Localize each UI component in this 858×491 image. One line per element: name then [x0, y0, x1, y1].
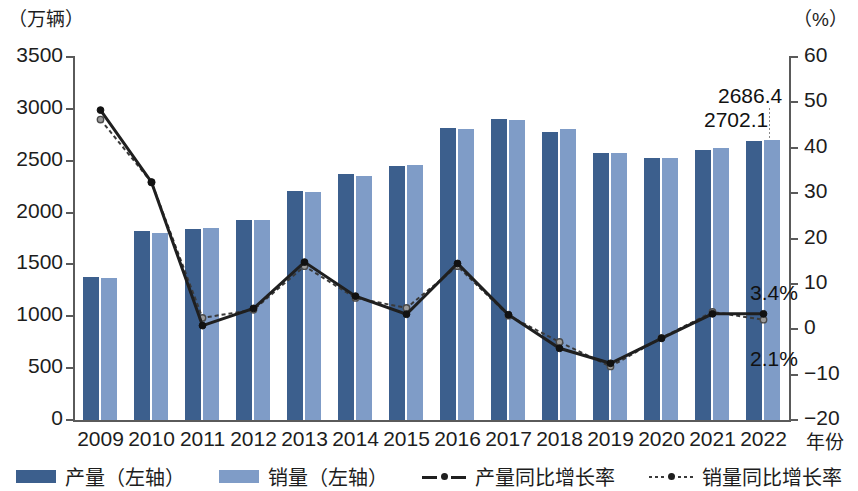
right-axis-tick	[789, 328, 798, 330]
production-bar	[593, 153, 609, 420]
dashed-line-marker-icon	[649, 470, 693, 484]
production-bar	[83, 277, 99, 420]
left-axis-tick-label: 2000	[16, 199, 63, 223]
x-axis-tick-label: 2011	[175, 427, 231, 451]
x-axis-tick-label: 2015	[379, 427, 435, 451]
production-bar	[491, 119, 507, 420]
left-axis-tick-label: 2500	[16, 147, 63, 171]
sales-growth-2022-label: 2.1%	[750, 347, 798, 371]
right-axis-tick-label: 30	[804, 179, 827, 203]
left-axis-tick-label: 0	[51, 406, 63, 430]
sales-bar	[509, 120, 525, 420]
production-bar	[134, 231, 150, 420]
x-axis-tick-label: 2010	[124, 427, 180, 451]
production-bar	[287, 191, 303, 420]
x-axis-tick-label: 2017	[481, 427, 537, 451]
right-axis-tick	[789, 238, 798, 240]
right-axis-tick	[789, 192, 798, 194]
production-growth-2022-label: 3.4%	[750, 281, 798, 305]
left-axis-tick-label: 1500	[16, 250, 63, 274]
right-axis-tick-label: 10	[804, 270, 827, 294]
left-axis-unit-label: （万辆）	[8, 4, 84, 31]
right-axis-unit-label: （%）	[793, 4, 848, 31]
production-bar	[440, 128, 456, 420]
right-axis-tick-label: 60	[804, 43, 827, 67]
x-axis-title: 年份	[806, 427, 844, 454]
legend-item[interactable]: 产量（左轴）	[16, 462, 185, 491]
production-bar	[542, 132, 558, 420]
chart-legend: 产量（左轴）销量（左轴）产量同比增长率销量同比增长率	[0, 462, 858, 491]
production-bar	[236, 220, 252, 420]
production-swatch-icon	[16, 470, 56, 483]
plot-area	[74, 57, 790, 420]
legend-item[interactable]: 产量同比增长率	[422, 462, 615, 491]
sales-bar	[764, 140, 780, 420]
x-axis-tick-label: 2021	[685, 427, 741, 451]
x-axis-tick-label: 2009	[73, 427, 129, 451]
production-bar	[338, 174, 354, 420]
sales-bar	[407, 165, 423, 420]
sales-bar	[713, 148, 729, 421]
x-axis-tick-label: 2012	[226, 427, 282, 451]
sales-bar	[611, 153, 627, 420]
left-axis-tick-label: 3500	[16, 43, 63, 67]
legend-item[interactable]: 销量同比增长率	[649, 462, 842, 491]
right-axis-tick-label: −10	[804, 361, 840, 385]
sales-bar	[101, 278, 117, 420]
production-2022-value-label: 2686.4	[718, 84, 782, 108]
x-axis-tick-label: 2014	[328, 427, 384, 451]
legend-label: 产量同比增长率	[475, 462, 615, 491]
x-axis-tick-label: 2018	[532, 427, 588, 451]
right-axis-tick	[789, 419, 798, 421]
production-bar	[644, 158, 660, 420]
legend-label: 销量同比增长率	[702, 462, 842, 491]
sales-bar	[458, 129, 474, 420]
sales-bar	[254, 220, 270, 420]
sales-bar	[152, 233, 168, 420]
right-axis-tick-label: 0	[804, 315, 816, 339]
production-bar	[185, 229, 201, 420]
production-bar	[389, 166, 405, 420]
legend-label: 销量（左轴）	[268, 462, 388, 491]
x-axis-tick-label: 2019	[583, 427, 639, 451]
sales-swatch-icon	[219, 470, 259, 483]
left-axis-tick-label: 1000	[16, 302, 63, 326]
sales-2022-value-label: 2702.1	[704, 108, 768, 132]
x-axis-tick-label: 2013	[277, 427, 333, 451]
sales-bar	[560, 129, 576, 420]
left-axis-tick-label: 500	[28, 354, 63, 378]
sales-bar	[203, 228, 219, 420]
x-axis-tick-label: 2022	[736, 427, 792, 451]
right-axis-tick-label: 20	[804, 225, 827, 249]
sales-bar	[305, 192, 321, 420]
right-axis-tick	[789, 101, 798, 103]
legend-item[interactable]: 销量（左轴）	[219, 462, 388, 491]
right-axis-tick	[789, 56, 798, 58]
right-axis-tick-label: 50	[804, 88, 827, 112]
right-axis-tick	[789, 147, 798, 149]
x-axis-line	[73, 420, 791, 422]
legend-label: 产量（左轴）	[65, 462, 185, 491]
sales-bar	[356, 176, 372, 420]
right-axis-tick	[789, 374, 798, 376]
x-axis-tick-label: 2020	[634, 427, 690, 451]
production-bar	[695, 150, 711, 421]
sales-bar	[662, 158, 678, 421]
left-axis-tick-label: 3000	[16, 95, 63, 119]
vehicle-production-sales-chart: （万辆） （%） 3500300025002000150010005000 60…	[0, 0, 858, 491]
solid-line-marker-icon	[422, 470, 466, 484]
right-axis-tick-label: 40	[804, 134, 827, 158]
x-axis-tick-label: 2016	[430, 427, 486, 451]
